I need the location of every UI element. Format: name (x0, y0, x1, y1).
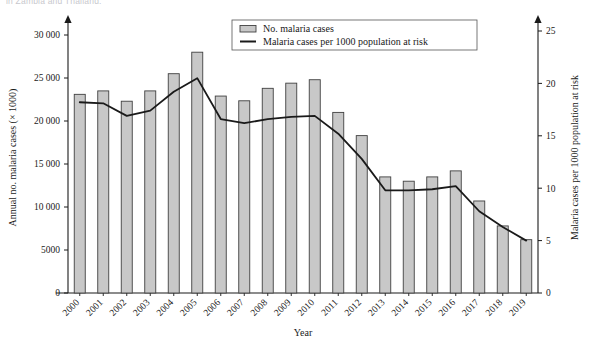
y2-axis-tick-label: 0 (546, 288, 551, 298)
x-axis-tick-label: 2004 (155, 297, 176, 318)
y2-axis-tick-label: 15 (546, 131, 556, 141)
y2-axis-title: Malaria cases per 1000 population at ris… (569, 75, 580, 240)
x-axis-tick-label: 2005 (178, 297, 199, 318)
bar (309, 80, 320, 293)
x-axis-tick-label: 2015 (413, 297, 434, 318)
bar (497, 226, 508, 293)
cutoff-caption-text: in Zambia and Thailand. (6, 0, 102, 6)
y-axis-tick-label: 5000 (41, 245, 60, 255)
bar (145, 91, 156, 293)
bar (239, 101, 250, 293)
bar (192, 52, 203, 293)
x-axis-tick-label: 2010 (296, 297, 317, 318)
bar-series-group (74, 52, 532, 293)
bar (427, 177, 438, 293)
y-axis-tick-label: 25 000 (34, 73, 60, 83)
x-axis-tick-label: 2018 (484, 297, 505, 318)
x-axis-tick-label: 2013 (366, 297, 387, 318)
y2-axis-tick-label: 20 (546, 79, 556, 89)
x-axis-tick-label: 2009 (272, 297, 293, 318)
x-axis-tick-label: 2006 (202, 297, 223, 318)
x-axis-tick-label: 2008 (249, 297, 270, 318)
right-axis-arrow (534, 15, 541, 23)
x-axis-tick-label: 2000 (61, 297, 82, 318)
y-axis-tick-label: 15 000 (34, 159, 60, 169)
bar (74, 94, 85, 293)
bar (168, 74, 179, 293)
bar (121, 101, 132, 293)
y-axis-tick-label: 10 000 (34, 202, 60, 212)
legend-label-line: Malaria cases per 1000 population at ris… (263, 36, 428, 47)
x-axis-title: Year (294, 327, 313, 338)
x-axis-tick-label: 2016 (437, 297, 458, 318)
bar (98, 91, 109, 293)
y-axis-tick-label: 20 000 (34, 116, 60, 126)
bar (380, 177, 391, 293)
y-axis-title: Annual no. malaria cases (× 1000) (7, 89, 19, 227)
x-axis-tick-label: 2001 (84, 297, 105, 318)
x-axis-tick-label: 2019 (507, 297, 528, 318)
y-axis-tick-label: 30 000 (34, 30, 60, 40)
legend-label-bar: No. malaria cases (263, 23, 334, 34)
x-axis-tick-label: 2007 (225, 297, 246, 318)
bar (521, 240, 532, 293)
y2-axis-tick-label: 5 (546, 236, 551, 246)
x-axis-tick-label: 2002 (108, 297, 129, 318)
malaria-chart: 0500010 00015 00020 00025 00030 00005101… (0, 0, 590, 344)
y-axis-tick-label: 0 (55, 288, 60, 298)
x-axis-tick-label: 2017 (460, 297, 481, 318)
legend-group: No. malaria casesMalaria cases per 1000 … (232, 20, 477, 50)
bar (333, 112, 344, 293)
bar (403, 181, 414, 293)
legend-swatch-bar (240, 26, 256, 33)
left-axis-arrow (64, 15, 71, 23)
x-axis-tick-label: 2003 (131, 297, 152, 318)
x-axis-tick-label: 2011 (319, 297, 339, 317)
y2-axis-tick-label: 25 (546, 26, 556, 36)
bar (286, 83, 297, 293)
y2-axis-tick-label: 10 (546, 184, 556, 194)
x-axis-tick-label: 2014 (390, 297, 411, 318)
bar (215, 96, 226, 293)
figure-container: in Zambia and Thailand. 0500010 00015 00… (0, 0, 590, 344)
x-axis-tick-label: 2012 (343, 297, 364, 318)
